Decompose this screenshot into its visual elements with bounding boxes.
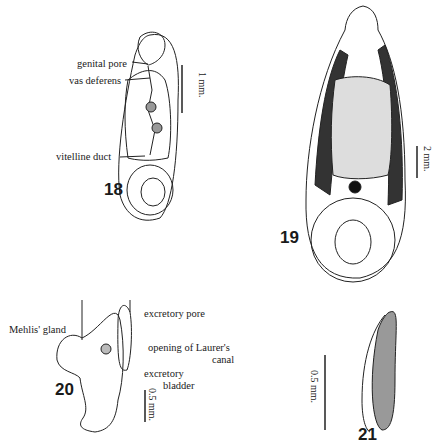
label-bladder: bladder bbox=[163, 380, 195, 391]
label-vas-deferens: vas deferens bbox=[69, 75, 121, 86]
label-canal: canal bbox=[212, 354, 234, 365]
scale-label-21: 0.5 mm. bbox=[309, 370, 320, 403]
figure-number-20: 20 bbox=[55, 380, 74, 400]
scale-label-19: 2 mm. bbox=[422, 146, 433, 172]
scale-label-20: 0.5 mm. bbox=[147, 388, 158, 421]
figure-number-19: 19 bbox=[280, 228, 299, 248]
label-vitelline-duct: vitelline duct bbox=[56, 151, 111, 162]
label-genital-pore: genital pore bbox=[77, 58, 127, 69]
label-opening-laurers: opening of Laurer's bbox=[148, 342, 230, 353]
scale-label-18: 1 mm. bbox=[197, 72, 208, 98]
figure-19-drawing bbox=[306, 6, 417, 282]
label-excretory: excretory bbox=[144, 368, 184, 379]
figure-number-18: 18 bbox=[104, 180, 123, 200]
figure-18-drawing bbox=[119, 32, 182, 220]
label-mehlis-gland: Mehlis' gland bbox=[9, 324, 66, 335]
figure-21-drawing bbox=[325, 312, 396, 432]
figure-number-21: 21 bbox=[358, 425, 377, 445]
figure-20-drawing bbox=[57, 300, 145, 432]
label-excretory-pore: excretory pore bbox=[144, 308, 205, 319]
